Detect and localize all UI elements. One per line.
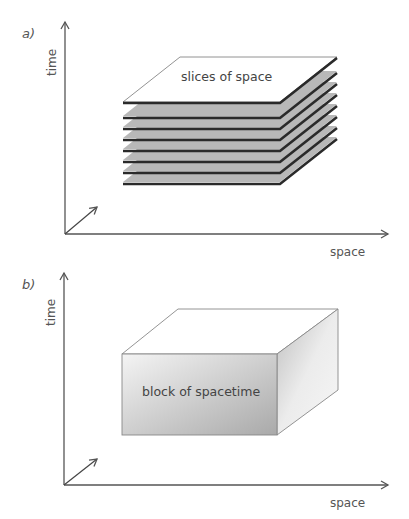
panel-b-label: b) <box>22 277 35 292</box>
space-label-b: space <box>330 496 365 510</box>
panel-a-label: a) <box>22 26 35 41</box>
space-label-a: space <box>330 245 365 259</box>
time-label-a: time <box>45 49 59 76</box>
panel-b: b) time space block of spacetime <box>22 273 388 510</box>
time-label-b: time <box>44 299 58 326</box>
spacetime-diagram: a) time space <box>0 0 409 519</box>
block-label: block of spacetime <box>142 384 260 399</box>
spacetime-block <box>122 309 338 435</box>
depth-axis-a <box>65 207 97 234</box>
panel-a: a) time space <box>22 22 388 259</box>
depth-axis-b <box>64 459 97 485</box>
slices-label: slices of space <box>181 69 273 84</box>
